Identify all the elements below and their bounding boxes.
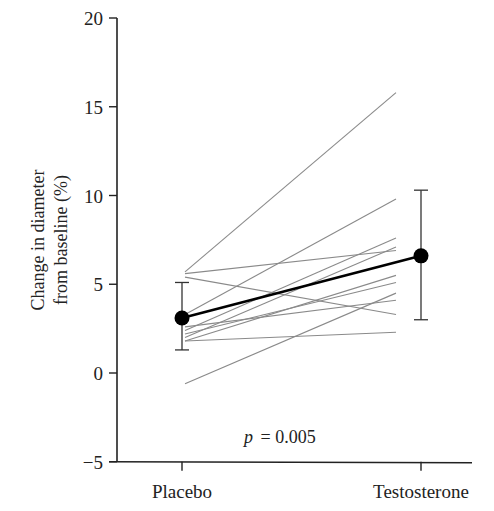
y-tick-label: 15 <box>84 97 103 118</box>
p-value-annotation: p = 0.005 <box>242 427 316 447</box>
y-tick-label: −5 <box>83 452 103 473</box>
y-tick-label: 0 <box>94 363 104 384</box>
y-axis: −505101520 <box>83 8 117 473</box>
individual-line-subject-10 <box>185 332 396 341</box>
y-tick-label: 10 <box>84 186 103 207</box>
mean-marker-placebo <box>175 310 190 325</box>
individual-line-subject-4 <box>185 199 396 314</box>
individual-line-subject-6 <box>185 300 396 327</box>
y-axis-title-line-2: from baseline (%) <box>51 175 72 305</box>
y-tick-label: 5 <box>94 274 104 295</box>
p-value-text: = 0.005 <box>261 427 316 447</box>
x-axis: PlaceboTestosterone <box>109 462 472 502</box>
individual-subject-lines <box>185 93 396 384</box>
individual-line-subject-7 <box>185 247 396 338</box>
individual-line-subject-1 <box>185 93 396 272</box>
y-axis-title-line-1: Change in diameter <box>28 170 48 311</box>
individual-line-subject-5 <box>185 238 396 330</box>
mean-line <box>182 256 421 318</box>
x-axis-line <box>109 462 472 463</box>
x-category-label-placebo: Placebo <box>152 481 212 502</box>
chart: −505101520 PlaceboTestosterone Change in… <box>0 0 494 511</box>
mean-marker-testosterone <box>414 248 429 263</box>
individual-line-subject-11 <box>185 293 396 384</box>
x-category-label-testosterone: Testosterone <box>373 481 469 502</box>
y-tick-label: 20 <box>84 8 103 29</box>
p-symbol: p <box>242 427 253 447</box>
